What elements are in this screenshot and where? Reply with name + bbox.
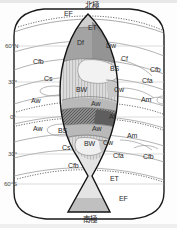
climate-label-cfb-nw: Cfb (33, 58, 44, 65)
climate-label-cfb-ne: Cfb (150, 66, 161, 73)
figure-bottom-edge (0, 224, 177, 228)
climate-label-bw-south: BW (84, 140, 95, 147)
climate-label-cw-south: Cw (103, 139, 113, 146)
latitude-label-0: 0° (10, 114, 16, 120)
climate-label-et-bottom: ET (110, 175, 119, 182)
climate-label-cfb-se: Cfb (143, 153, 154, 160)
climate-map-svg (0, 0, 177, 228)
climate-label-dw: Dw (106, 42, 116, 49)
climate-label-aw-south: Aw (92, 125, 101, 132)
climate-label-aw-sw: Aw (33, 125, 42, 132)
latitude-label-60s: 60°S (4, 181, 17, 187)
north-pole-label: 北極 (85, 2, 99, 10)
climate-label-aw-nw: Aw (31, 97, 40, 104)
climate-label-ef-bottom: EF (119, 195, 128, 202)
climate-map-figure: 60°N 30° 0° 30° 60°S 北極 南極 EF ET Df Dw C… (0, 0, 177, 228)
climate-label-af: Af (109, 113, 115, 120)
climate-label-aw-north: Aw (91, 100, 100, 107)
climate-label-am-se: Am (127, 132, 137, 139)
climate-label-bw-north: BW (76, 86, 87, 93)
climate-label-cfb-sw: Cfb (68, 162, 79, 169)
climate-label-df: Df (77, 39, 84, 46)
climate-label-ef-top: EF (64, 10, 73, 17)
latitude-label-60n: 60°N (5, 43, 18, 49)
latitude-label-30s: 30° (8, 151, 17, 157)
south-pole-label: 南極 (83, 216, 97, 224)
latitude-label-30n: 30° (8, 79, 17, 85)
climate-label-am-ne: Am (141, 96, 151, 103)
climate-label-bs-south: BS (58, 127, 67, 134)
climate-label-cs-nw: Cs (44, 75, 52, 82)
climate-label-bs-north: BS (110, 65, 119, 72)
climate-label-cf-inner: Cf (121, 55, 128, 62)
climate-label-cs-sw: Cs (62, 144, 70, 151)
climate-label-et-top: ET (88, 24, 97, 31)
climate-label-cfa-se: Cfa (113, 152, 124, 159)
climate-label-cw-north: Cw (114, 86, 124, 93)
climate-label-cfa-ne: Cfa (142, 77, 153, 84)
